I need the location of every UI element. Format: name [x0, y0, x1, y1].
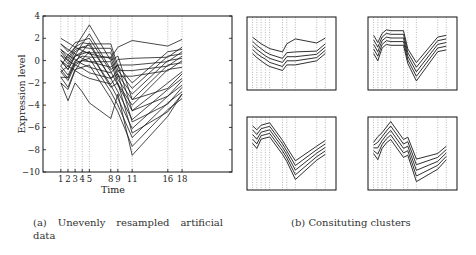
x-tick-label: 9: [115, 174, 120, 184]
main-line-chart: 420−2−4−6−8−101234589111618TimeExpressio…: [16, 11, 232, 195]
x-tick-label: 5: [87, 174, 92, 184]
y-tick-label: −6: [27, 122, 40, 132]
x-tick-label: 8: [108, 174, 113, 184]
y-tick-label: −4: [27, 100, 40, 110]
cluster-4-chart: [368, 117, 457, 190]
cluster-3-chart: [247, 117, 336, 190]
y-tick-label: 4: [35, 11, 40, 21]
x-tick-label: 16: [162, 174, 173, 184]
caption-a: (a) Unevenly resampled artificial data: [33, 216, 223, 242]
series-line: [374, 140, 447, 182]
series-line: [61, 83, 182, 155]
series-line: [374, 135, 447, 176]
series-line: [374, 44, 447, 81]
series-line: [253, 126, 326, 165]
y-tick-label: 2: [35, 33, 40, 43]
series-line: [253, 54, 326, 71]
cluster-2-chart: [368, 17, 457, 90]
x-tick-label: 11: [127, 174, 138, 184]
y-tick-label: −8: [27, 145, 40, 155]
y-axis-label: Expression level: [16, 55, 27, 134]
x-tick-label: 2: [65, 174, 70, 184]
x-axis-label: Time: [101, 184, 125, 195]
plot-frame: [247, 117, 336, 190]
x-tick-label: 3: [72, 174, 77, 184]
y-tick-label: −10: [22, 167, 40, 177]
plot-frame: [247, 17, 336, 90]
plot-frame: [368, 17, 457, 90]
series-line: [253, 45, 326, 62]
series-line: [61, 52, 182, 129]
y-tick-label: −2: [27, 78, 40, 88]
x-tick-label: 1: [58, 174, 63, 184]
x-tick-label: 18: [177, 174, 188, 184]
series-line: [253, 37, 326, 52]
series-line: [253, 41, 326, 58]
x-tick-label: 4: [80, 174, 85, 184]
caption-b: (b) Consituting clusters: [291, 216, 441, 229]
series-line: [253, 49, 326, 66]
cluster-1-chart: [247, 17, 336, 90]
y-tick-label: 0: [35, 56, 40, 66]
series-line: [374, 131, 447, 171]
